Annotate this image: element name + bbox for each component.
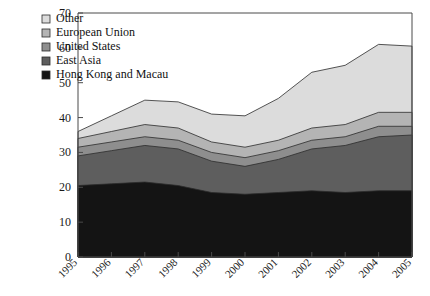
legend-label: United States [56, 39, 121, 53]
x-tick-label: 1997 [122, 256, 146, 280]
x-tick-label: 2005 [389, 256, 413, 280]
legend-label: Other [56, 11, 83, 25]
legend-swatch-hong-kong-and-macau [42, 71, 50, 79]
legend-swatch-east-asia [42, 57, 50, 65]
legend-label: East Asia [56, 53, 102, 67]
x-tick-label: 1998 [156, 256, 180, 280]
y-tick-label: 40 [59, 111, 71, 125]
legend-swatch-european-union [42, 29, 50, 37]
legend-swatch-united-states [42, 43, 50, 51]
x-tick-label: 1996 [89, 256, 113, 280]
x-tick-label: 2004 [356, 256, 380, 280]
x-tick-label: 2001 [256, 256, 280, 280]
x-tick-label: 2000 [222, 256, 246, 280]
x-tick-label: 1999 [189, 256, 213, 280]
chart-root: 010203040506070 199519961997199819992000… [0, 0, 430, 296]
x-tick-label: 2002 [289, 256, 313, 280]
x-tick-label: 2003 [323, 256, 347, 280]
legend-label: European Union [56, 25, 135, 39]
y-tick-label: 30 [59, 145, 71, 159]
x-tick-label: 1995 [55, 256, 79, 280]
stacked-area-chart: 010203040506070 199519961997199819992000… [0, 0, 430, 296]
legend-label: Hong Kong and Macau [56, 67, 168, 81]
y-tick-label: 10 [59, 215, 71, 229]
y-tick-label: 20 [59, 180, 71, 194]
legend-swatch-other [42, 15, 50, 23]
